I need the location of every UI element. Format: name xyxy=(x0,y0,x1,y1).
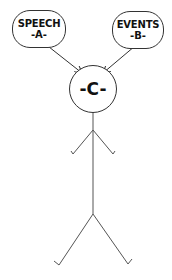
speech-tag: -A- xyxy=(31,29,47,40)
right-leg xyxy=(93,214,132,264)
events-bubble-b: EVENTS -B- xyxy=(112,11,164,49)
events-tag: -B- xyxy=(130,30,146,41)
speech-bubble-a: SPEECH -A- xyxy=(12,10,66,48)
events-label: EVENTS xyxy=(117,19,160,30)
head-label: -C- xyxy=(80,79,107,99)
left-arm xyxy=(71,130,93,154)
arrow-b-to-c xyxy=(103,46,135,73)
left-leg xyxy=(54,214,93,265)
diagram-canvas: SPEECH -A- EVENTS -B- -C- xyxy=(0,0,172,280)
right-arm xyxy=(93,130,115,154)
speech-label: SPEECH xyxy=(18,18,61,29)
head-circle-c: -C- xyxy=(69,65,117,113)
